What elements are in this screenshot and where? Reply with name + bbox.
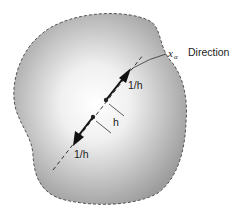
upper-arrow-label: 1/h: [128, 79, 143, 91]
direction-symbol: x: [167, 47, 173, 59]
region-body: [14, 14, 187, 205]
point-upper: [104, 98, 108, 102]
direction-text: Direction: [188, 46, 230, 58]
direction-subscript: α: [174, 53, 178, 61]
lower-arrow-label: 1/h: [74, 148, 89, 160]
diagram-svg: 1/h h 1/h x α Direction: [0, 0, 242, 217]
diagram-canvas: 1/h h 1/h x α Direction: [0, 0, 242, 217]
spacing-label: h: [113, 116, 119, 128]
point-lower: [91, 115, 95, 119]
